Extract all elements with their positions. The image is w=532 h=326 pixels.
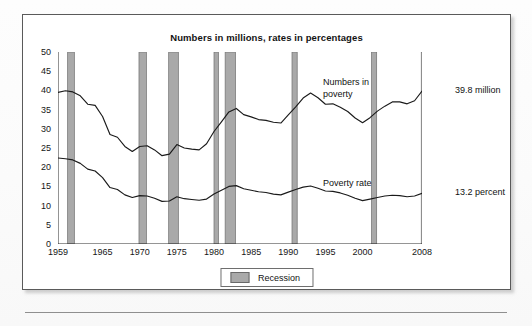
y-tick-label: 50 xyxy=(31,47,51,57)
x-tick-label: 1990 xyxy=(278,247,298,257)
x-tick-label: 1970 xyxy=(130,247,150,257)
recession-swatch-icon xyxy=(230,272,249,283)
y-tick-label: 20 xyxy=(31,162,51,172)
x-tick-label: 1985 xyxy=(241,247,261,257)
series-label-poverty-rate: Poverty rate xyxy=(323,178,372,190)
recession-band xyxy=(371,52,376,244)
y-tick-label: 30 xyxy=(31,124,51,134)
x-tick-label: 1980 xyxy=(204,247,224,257)
x-tick-label: 1975 xyxy=(167,247,187,257)
y-tick-label: 45 xyxy=(31,66,51,76)
x-tick-label: 2008 xyxy=(412,247,432,257)
recession-band xyxy=(292,52,297,244)
legend-label-recession: Recession xyxy=(258,273,300,283)
x-tick-label: 2000 xyxy=(353,247,373,257)
y-tick-label: 25 xyxy=(31,143,51,153)
x-tick-label: 1965 xyxy=(93,247,113,257)
recession-band xyxy=(225,52,235,244)
series-label-numbers-in-poverty: Numbers in poverty xyxy=(323,77,369,100)
y-tick-label: 10 xyxy=(31,201,51,211)
recession-band xyxy=(421,52,422,244)
x-axis-tick-labels: 1959196519701975198019851990199520002008 xyxy=(23,247,510,263)
figure-container: Numbers in millions, rates in percentage… xyxy=(22,14,511,290)
y-tick-label: 40 xyxy=(31,85,51,95)
y-tick-label: 15 xyxy=(31,181,51,191)
y-tick-label: 35 xyxy=(31,105,51,115)
footer-divider xyxy=(25,312,507,313)
chart-title: Numbers in millions, rates in percentage… xyxy=(23,32,510,43)
endpoint-value-numbers: 39.8 million xyxy=(455,85,501,95)
chart-legend: Recession xyxy=(220,268,313,287)
recession-band xyxy=(214,52,218,244)
endpoint-value-rate: 13.2 percent xyxy=(455,187,505,197)
x-tick-label: 1995 xyxy=(315,247,335,257)
series-line-numbers-in-poverty xyxy=(58,91,422,156)
y-tick-label: 5 xyxy=(31,220,51,230)
x-tick-label: 1959 xyxy=(48,247,68,257)
recession-band xyxy=(68,52,75,244)
recession-band xyxy=(139,52,146,244)
